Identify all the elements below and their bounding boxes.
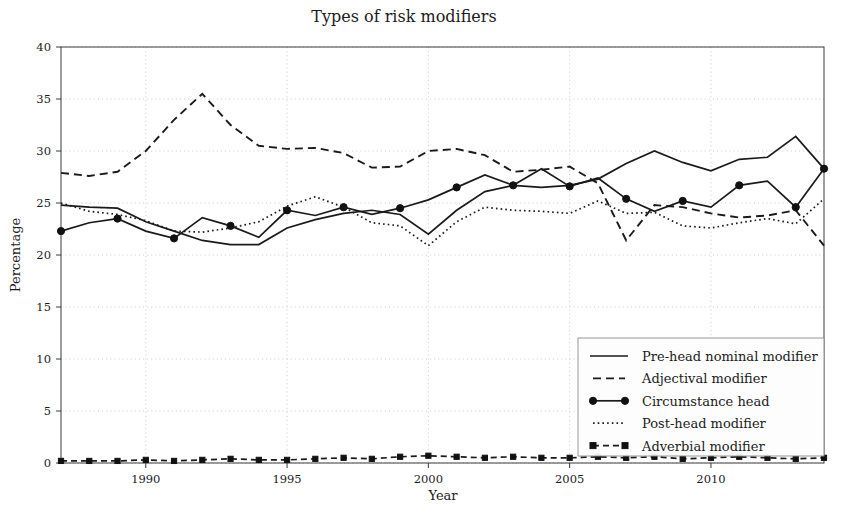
data-point bbox=[170, 235, 177, 242]
data-point bbox=[793, 456, 798, 461]
y-tick-label: 5 bbox=[44, 404, 51, 418]
x-tick-label: 1990 bbox=[131, 472, 160, 486]
data-point bbox=[256, 457, 261, 462]
legend-swatch-marker bbox=[621, 397, 628, 404]
y-tick-label: 20 bbox=[36, 248, 51, 262]
data-point bbox=[369, 456, 374, 461]
chart-svg: Types of risk modifiers 0510152025303540… bbox=[0, 0, 849, 531]
data-point bbox=[736, 182, 743, 189]
data-point bbox=[115, 458, 120, 463]
x-tick-label: 2010 bbox=[696, 472, 725, 486]
data-point bbox=[227, 222, 234, 229]
data-point bbox=[341, 455, 346, 460]
x-axis-label: Year bbox=[427, 488, 458, 503]
data-point bbox=[453, 184, 460, 191]
x-tick-label: 2005 bbox=[555, 472, 584, 486]
data-point bbox=[820, 165, 827, 172]
legend-label: Pre-head nominal modifier bbox=[642, 349, 818, 364]
data-point bbox=[114, 215, 121, 222]
legend-swatch-marker bbox=[589, 397, 596, 404]
legend-label: Adverbial modifier bbox=[641, 439, 765, 454]
legend-swatch-marker bbox=[622, 443, 628, 449]
data-point bbox=[397, 205, 404, 212]
data-point bbox=[228, 456, 233, 461]
y-tick-label: 0 bbox=[44, 456, 51, 470]
x-tick-label: 2000 bbox=[414, 472, 443, 486]
data-point bbox=[313, 456, 318, 461]
data-point bbox=[426, 453, 431, 458]
data-point bbox=[340, 204, 347, 211]
data-point bbox=[143, 457, 148, 462]
y-axis-label: Percentage bbox=[8, 217, 23, 292]
data-point bbox=[510, 182, 517, 189]
y-tick-label: 35 bbox=[36, 92, 51, 106]
chart-title: Types of risk modifiers bbox=[311, 7, 496, 26]
data-point bbox=[284, 457, 289, 462]
data-point bbox=[200, 457, 205, 462]
legend-label: Adjectival modifier bbox=[641, 371, 767, 386]
legend-swatch-marker bbox=[590, 443, 596, 449]
data-point bbox=[87, 458, 92, 463]
y-tick-label: 15 bbox=[36, 300, 51, 314]
data-point bbox=[58, 458, 63, 463]
data-point bbox=[623, 195, 630, 202]
y-tick-label: 30 bbox=[36, 144, 51, 158]
data-point bbox=[567, 455, 572, 460]
x-tick-label: 1995 bbox=[272, 472, 301, 486]
chart-legend: Pre-head nominal modifierAdjectival modi… bbox=[578, 338, 824, 456]
chart-figure: Types of risk modifiers 0510152025303540… bbox=[0, 0, 849, 531]
data-point bbox=[482, 455, 487, 460]
legend-label: Circumstance head bbox=[642, 394, 770, 409]
data-point bbox=[511, 454, 516, 459]
data-point bbox=[792, 204, 799, 211]
data-point bbox=[539, 455, 544, 460]
y-tick-label: 40 bbox=[36, 40, 51, 54]
y-tick-label: 10 bbox=[36, 352, 51, 366]
legend-label: Post-head modifier bbox=[642, 416, 767, 431]
data-point bbox=[679, 197, 686, 204]
data-point bbox=[171, 458, 176, 463]
data-point bbox=[283, 207, 290, 214]
data-point bbox=[398, 454, 403, 459]
data-point bbox=[566, 183, 573, 190]
data-point bbox=[680, 456, 685, 461]
y-tick-label: 25 bbox=[36, 196, 51, 210]
data-point bbox=[454, 454, 459, 459]
data-point bbox=[57, 227, 64, 234]
